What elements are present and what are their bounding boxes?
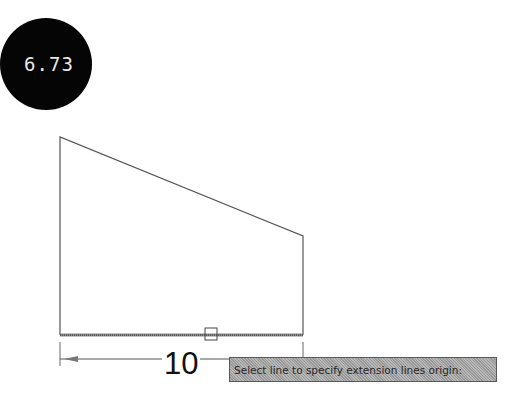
- shape-outline[interactable]: [60, 137, 303, 335]
- drawing-canvas[interactable]: [0, 0, 522, 401]
- command-prompt-tooltip: Select line to specify extension lines o…: [229, 357, 497, 382]
- dimension-value: 10: [162, 349, 200, 379]
- dimension-arrow-icon: [64, 356, 78, 362]
- tooltip-text: Select line to specify extension lines o…: [234, 364, 462, 376]
